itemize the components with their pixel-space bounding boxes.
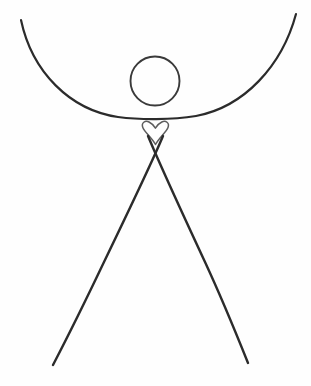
paper-background bbox=[0, 0, 311, 386]
drawing-canvas bbox=[0, 0, 311, 386]
stick-figure-drawing bbox=[0, 0, 311, 386]
